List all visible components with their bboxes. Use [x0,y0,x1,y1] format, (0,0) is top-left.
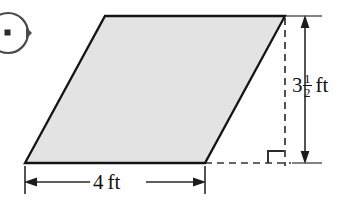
height-numerator: 1 [303,72,312,85]
width-value: 4 [93,170,104,194]
parallelogram-shape [25,16,285,163]
right-angle-marker [268,151,284,163]
height-denominator: 2 [303,85,312,99]
height-unit: ft [316,75,329,96]
height-arrow-down [301,151,310,164]
width-dimension-label: 4ft [93,172,120,193]
height-whole-part: 3 [292,75,303,96]
height-arrow-up [301,15,310,28]
clipped-circle-marker-icon [0,13,32,53]
height-dimension-label: 3 1 2 ft [292,72,328,100]
figure-canvas [0,0,345,201]
width-arrow-right [193,178,206,187]
mixed-number: 3 1 2 [292,72,312,100]
parallelogram-figure: 3 1 2 ft 4ft [0,0,345,201]
width-unit: ft [108,170,121,194]
width-arrow-left [24,178,37,187]
height-fraction: 1 2 [303,72,312,100]
